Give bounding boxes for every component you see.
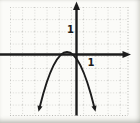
graph-figure: 1 1: [0, 0, 140, 123]
x-axis-tick-label: 1: [88, 57, 95, 68]
y-axis-arrow-icon: [73, 2, 80, 11]
y-axis-tick-label: 1: [67, 24, 74, 35]
coordinate-plane: 1 1: [0, 0, 140, 123]
